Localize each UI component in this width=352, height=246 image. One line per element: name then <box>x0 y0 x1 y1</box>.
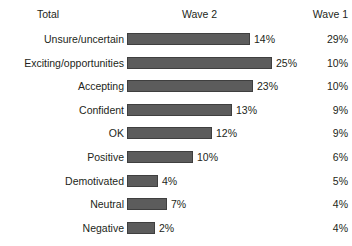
bar-wave-2 <box>127 33 250 45</box>
chart-row: Positive10%6% <box>0 147 352 167</box>
bar-wave-2 <box>127 127 212 139</box>
category-label: Neutral <box>0 194 124 214</box>
value-wave-1: 29% <box>255 29 348 49</box>
value-wave-1: 9% <box>255 123 348 143</box>
chart-row: Neutral7%4% <box>0 194 352 214</box>
chart-header: Total Wave 2 Wave 1 <box>0 7 352 23</box>
bar-value-wave-2: 12% <box>216 123 237 143</box>
chart-row: OK12%9% <box>0 123 352 143</box>
bar-value-wave-2: 10% <box>197 147 218 167</box>
category-label: Exciting/opportunities <box>0 53 124 73</box>
chart-row: Demotivated4%5% <box>0 171 352 191</box>
bar-wave-2 <box>127 57 272 69</box>
column-header-total: Total <box>37 7 59 21</box>
column-header-wave-1: Wave 1 <box>255 7 348 21</box>
category-label: Accepting <box>0 76 124 96</box>
chart-row: Accepting23%10% <box>0 76 352 96</box>
bar-value-wave-2: 2% <box>159 218 174 238</box>
category-label: OK <box>0 123 124 143</box>
value-wave-1: 5% <box>255 171 348 191</box>
category-label: Demotivated <box>0 171 124 191</box>
bar-wave-2 <box>127 175 158 187</box>
bar-wave-2 <box>127 151 193 163</box>
chart-row: Confident13%9% <box>0 100 352 120</box>
bar-value-wave-2: 13% <box>236 100 257 120</box>
category-label: Unsure/uncertain <box>0 29 124 49</box>
bar-value-wave-2: 4% <box>162 171 177 191</box>
chart-row: Exciting/opportunities25%10% <box>0 53 352 73</box>
chart-row: Negative2%4% <box>0 218 352 238</box>
value-wave-1: 6% <box>255 147 348 167</box>
column-header-wave-2: Wave 2 <box>182 7 217 21</box>
value-wave-1: 4% <box>255 194 348 214</box>
bar-wave-2 <box>127 198 167 210</box>
bar-value-wave-2: 7% <box>171 194 186 214</box>
horizontal-bar-chart: Total Wave 2 Wave 1 Unsure/uncertain14%2… <box>0 0 352 246</box>
value-wave-1: 9% <box>255 100 348 120</box>
bar-wave-2 <box>127 80 253 92</box>
bar-wave-2 <box>127 222 155 234</box>
category-label: Confident <box>0 100 124 120</box>
category-label: Positive <box>0 147 124 167</box>
bar-wave-2 <box>127 104 232 116</box>
value-wave-1: 10% <box>255 53 348 73</box>
category-label: Negative <box>0 218 124 238</box>
value-wave-1: 10% <box>255 76 348 96</box>
chart-row: Unsure/uncertain14%29% <box>0 29 352 49</box>
value-wave-1: 4% <box>255 218 348 238</box>
